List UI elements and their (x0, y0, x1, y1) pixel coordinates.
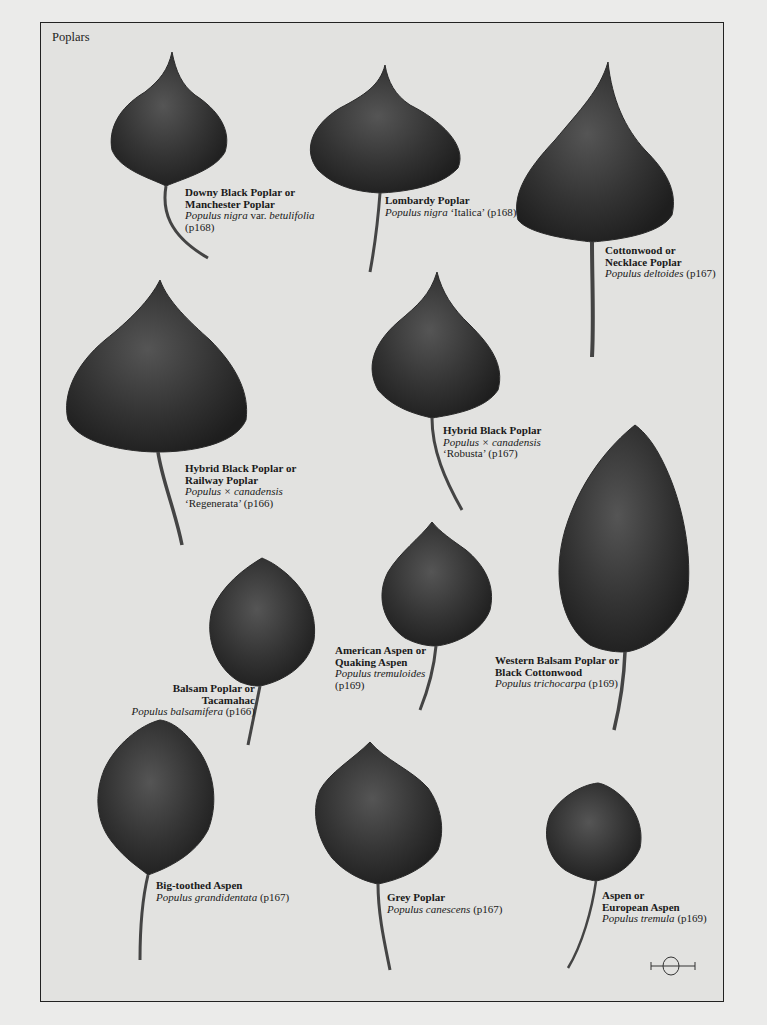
caption-western-balsam-poplar: Western Balsam Poplar or Black Cottonwoo… (495, 655, 619, 690)
leaf-cottonwood-icon (517, 62, 674, 357)
caption-hybrid-black-poplar-railway: Hybrid Black Poplar or Railway Poplar Po… (185, 463, 296, 509)
leaf-european-aspen-icon (546, 783, 641, 968)
caption-lombardy-poplar: Lombardy Poplar Populus nigra ‘Italica’ … (385, 195, 516, 218)
leaf-hybrid-black-poplar-robusta-icon (372, 272, 500, 510)
caption-big-toothed-aspen: Big-toothed Aspen Populus grandidentata … (156, 880, 289, 903)
leaf-illustrations (0, 0, 767, 1025)
caption-european-aspen: Aspen or European Aspen Populus tremula … (602, 890, 707, 925)
caption-balsam-poplar: Balsam Poplar or Tacamahac Populus balsa… (120, 683, 255, 718)
caption-grey-poplar: Grey Poplar Populus canescens (p167) (387, 892, 502, 915)
leaf-big-toothed-aspen-icon (98, 720, 214, 960)
caption-cottonwood: Cottonwood or Necklace Poplar Populus de… (605, 245, 716, 280)
scale-bar-icon (650, 956, 696, 976)
leaf-lombardy-poplar-icon (310, 65, 460, 272)
leaf-grey-poplar-icon (316, 742, 442, 970)
caption-hybrid-black-poplar-robusta: Hybrid Black Poplar Populus × canadensis… (443, 425, 541, 460)
caption-downy-black-poplar: Downy Black Poplar or Manchester Poplar … (185, 187, 315, 233)
caption-american-aspen: American Aspen or Quaking Aspen Populus … (335, 645, 426, 691)
